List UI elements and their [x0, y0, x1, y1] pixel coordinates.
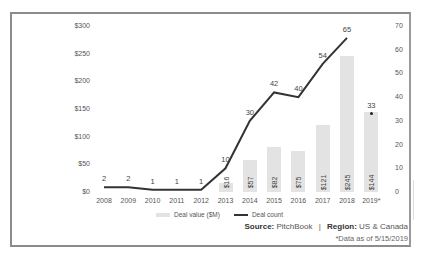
count-label: 2 [118, 174, 138, 183]
legend-bar-label: Deal value ($M) [174, 211, 220, 218]
count-label: 10 [216, 155, 236, 164]
count-label: 40 [288, 84, 308, 93]
source-line: Source: PitchBook | Region: US & Canada [244, 222, 408, 231]
count-label: 1 [167, 177, 187, 186]
count-label: 65 [337, 25, 357, 34]
count-label: 54 [313, 51, 333, 60]
count-label: 42 [264, 79, 284, 88]
count-label: 33 [361, 101, 381, 110]
legend-bar-swatch [156, 213, 170, 217]
deal-count-line [0, 0, 424, 259]
data-note: *Data as of 5/15/2019 [335, 234, 408, 243]
legend-line-swatch [234, 214, 248, 216]
source-value: PitchBook [276, 222, 312, 231]
legend: Deal value ($M) Deal count [156, 211, 283, 218]
count-label: 2 [94, 174, 114, 183]
region-value: US & Canada [359, 222, 408, 231]
region-label: Region: [327, 222, 357, 231]
count-label: 1 [143, 177, 163, 186]
count-label: 1 [191, 177, 211, 186]
source-label: Source: [244, 222, 274, 231]
legend-line-label: Deal count [252, 211, 283, 218]
count-label: 30 [240, 108, 260, 117]
separator: | [319, 222, 321, 231]
